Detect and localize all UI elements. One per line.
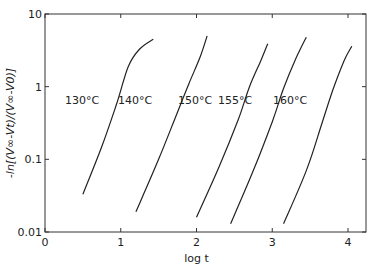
curve-label: 150°C (178, 94, 212, 107)
x-tick-label: 2 (193, 236, 200, 249)
curve-140c (136, 36, 207, 212)
curve-160c (284, 46, 352, 224)
curve-130c (83, 39, 153, 194)
y-axis-title: -ln[(V∞-Vt)/(V∞-V0)] (4, 68, 17, 178)
chart: 012340.010.1110log t-ln[(V∞-Vt)/(V∞-V0)]… (0, 0, 381, 270)
x-tick-label: 1 (117, 236, 124, 249)
x-axis-title: log t (184, 252, 209, 265)
plot-frame (45, 14, 366, 232)
x-tick-label: 4 (345, 236, 352, 249)
x-tick-label: 0 (42, 236, 49, 249)
x-tick-label: 3 (269, 236, 276, 249)
curve-150c (197, 44, 268, 218)
y-tick-label: 0.01 (18, 226, 43, 239)
curve-label: 155°C (218, 94, 252, 107)
curve-label: 140°C (118, 94, 152, 107)
curve-155c (231, 37, 307, 224)
curve-label: 160°C (273, 94, 307, 107)
y-tick-label: 1 (35, 81, 42, 94)
curve-label: 130°C (65, 94, 99, 107)
y-tick-label: 0.1 (25, 153, 43, 166)
y-tick-label: 10 (28, 8, 42, 21)
